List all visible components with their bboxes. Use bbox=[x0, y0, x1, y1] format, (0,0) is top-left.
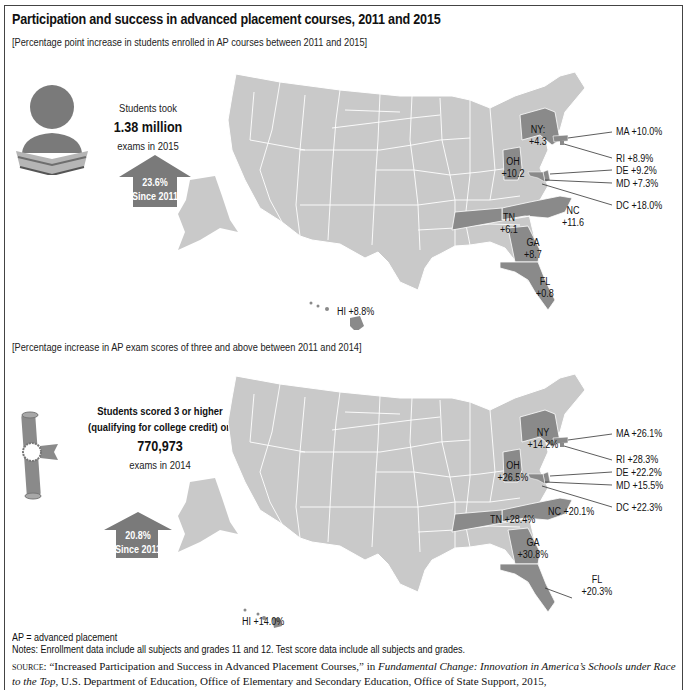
label-dc: DC +18.0% bbox=[616, 200, 662, 212]
label-ga: GA+30.8% bbox=[515, 537, 551, 561]
label-nc: NC+11.6 bbox=[555, 205, 591, 229]
state-AK bbox=[178, 176, 238, 250]
source-citation: source: “Increased Participation and Suc… bbox=[12, 659, 684, 690]
label-de: DE +22.2% bbox=[616, 467, 662, 479]
label-fl: FL+20.3% bbox=[579, 574, 615, 598]
label-dc: DC +22.3% bbox=[616, 502, 662, 514]
label-ri: RI +8.9% bbox=[616, 153, 653, 165]
label-ri: RI +28.3% bbox=[616, 454, 658, 466]
label-ma: MA +26.1% bbox=[616, 428, 662, 440]
label-md: MD +7.3% bbox=[616, 178, 658, 190]
label-hi: HI +14.0% bbox=[242, 616, 284, 628]
label-tn: TN+6.1 bbox=[496, 212, 523, 236]
notes-text: Notes: Enrollment data include all subje… bbox=[12, 644, 465, 655]
label-ny: NY:+4.3 bbox=[520, 124, 556, 148]
state-RI bbox=[560, 141, 564, 145]
abbreviation-note: AP = advanced placement bbox=[12, 632, 117, 643]
label-ny: NY+14.2% bbox=[522, 427, 563, 451]
label-md: MD +15.5% bbox=[616, 480, 663, 492]
label-nc: NC +20.1% bbox=[548, 506, 594, 518]
label-tn: TN +28.4% bbox=[490, 514, 535, 526]
label-oh: OH+26.5% bbox=[492, 460, 533, 484]
state-AK bbox=[178, 478, 238, 552]
label-ga: GA+8.7 bbox=[520, 237, 547, 261]
label-ma: MA +10.0% bbox=[616, 126, 662, 138]
label-de: DE +9.2% bbox=[616, 165, 657, 177]
us-map-enrollment bbox=[0, 0, 687, 330]
label-oh: OH+10.2 bbox=[495, 156, 531, 180]
label-fl: FL+0.8 bbox=[532, 276, 559, 300]
state-FL bbox=[500, 564, 555, 612]
